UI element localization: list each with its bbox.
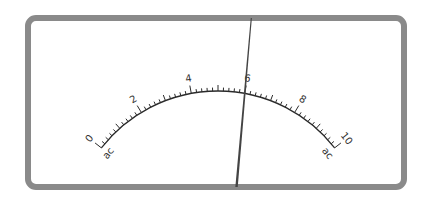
meter-frame [28,18,404,187]
scale-tick [239,89,240,92]
analog-meter: 0 2 4 6 8 10 ac ac [0,0,428,198]
scale-tick [196,89,197,92]
